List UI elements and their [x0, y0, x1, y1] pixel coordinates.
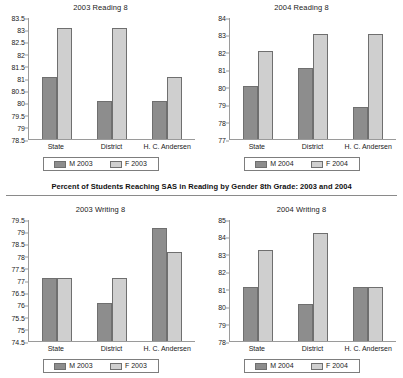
bar-group — [353, 18, 383, 139]
plot-frame — [28, 18, 195, 140]
bar-male[interactable] — [243, 86, 258, 139]
bar-male[interactable] — [298, 68, 313, 139]
chart-panel-2003-reading-8: 2003 Reading 8 78.57979.58080.58181.5828… — [0, 0, 201, 171]
y-axis-tick-label: 82.5 — [11, 39, 25, 46]
bar-female[interactable] — [258, 250, 273, 341]
bar-male[interactable] — [298, 304, 313, 341]
bar-group — [97, 220, 127, 341]
y-axis-tick-label: 77 — [218, 137, 226, 144]
bar-series-container — [29, 18, 195, 139]
bar-series-container — [29, 220, 195, 341]
chart-title: 2004 Reading 8 — [201, 0, 402, 14]
y-axis-tick-label: 83.5 — [11, 15, 25, 22]
x-axis-tick-label: State — [28, 342, 84, 353]
bar-male[interactable] — [97, 101, 112, 139]
bar-series-container — [230, 220, 396, 341]
y-axis-tick-label: 77.5 — [11, 265, 25, 272]
y-axis: 78.57979.58080.58181.58282.58383.5 — [2, 14, 28, 140]
legend-label-female: F 2004 — [326, 362, 348, 370]
chart-title: 2004 Writing 8 — [201, 202, 402, 216]
y-axis-tick-label: 82 — [218, 49, 226, 56]
bar-male[interactable] — [152, 228, 167, 341]
legend-swatch-female-icon — [110, 161, 122, 168]
x-axis-tick-label: District — [285, 140, 341, 151]
legend-label-male: M 2003 — [69, 160, 92, 168]
legend-label-female: F 2003 — [125, 160, 147, 168]
y-axis-tick-label: 85 — [218, 217, 226, 224]
legend-swatch-male-icon — [54, 161, 66, 168]
chart-panel-2004-writing-8: 2004 Writing 8 7879808182838485 StateDis… — [201, 202, 402, 373]
y-axis-tick-label: 80 — [218, 84, 226, 91]
section-heading: Percent of Students Reaching SAS in Read… — [0, 182, 403, 192]
bar-group — [152, 18, 182, 139]
x-axis-tick-label: District — [84, 140, 140, 151]
y-axis-tick-label: 83 — [218, 32, 226, 39]
legend-item-male: M 2004 — [255, 362, 293, 370]
chart-legend: M 2003 F 2003 — [43, 157, 159, 171]
y-axis-tick-label: 83 — [17, 27, 25, 34]
bar-male[interactable] — [42, 278, 57, 341]
y-axis-tick-label: 78 — [17, 253, 25, 260]
plot-frame — [229, 18, 396, 140]
y-axis-tick-label: 80.5 — [11, 88, 25, 95]
chart-legend: M 2004 F 2004 — [244, 157, 360, 171]
legend-swatch-male-icon — [255, 161, 267, 168]
bar-group — [152, 220, 182, 341]
y-axis-tick-label: 82 — [17, 51, 25, 58]
y-axis: 7879808182838485 — [203, 216, 229, 342]
y-axis: 74.57575.57676.57777.57878.57979.5 — [2, 216, 28, 342]
legend-label-male: M 2004 — [270, 362, 293, 370]
y-axis-tick-label: 76.5 — [11, 290, 25, 297]
plot-area: 7778798081828384 — [203, 14, 396, 140]
bar-female[interactable] — [368, 287, 383, 341]
y-axis-tick-label: 77 — [17, 278, 25, 285]
bar-female[interactable] — [313, 34, 328, 139]
y-axis-tick-label: 84 — [218, 15, 226, 22]
bar-male[interactable] — [353, 287, 368, 341]
x-axis-tick-label: H. C. Andersen — [139, 140, 195, 151]
bar-female[interactable] — [368, 34, 383, 139]
bar-male[interactable] — [152, 101, 167, 139]
y-axis-tick-label: 74.5 — [11, 339, 25, 346]
legend-item-male: M 2003 — [54, 362, 92, 370]
y-axis: 7778798081828384 — [203, 14, 229, 140]
bar-female[interactable] — [167, 252, 182, 341]
legend-swatch-male-icon — [255, 363, 267, 370]
bar-female[interactable] — [313, 233, 328, 341]
bar-female[interactable] — [112, 28, 127, 139]
bar-female[interactable] — [258, 51, 273, 139]
legend-label-male: M 2004 — [270, 160, 293, 168]
bar-female[interactable] — [112, 278, 127, 341]
bar-female[interactable] — [57, 278, 72, 341]
chart-page: 2003 Reading 8 78.57979.58080.58181.5828… — [0, 0, 403, 378]
y-axis-tick-label: 78.5 — [11, 137, 25, 144]
bar-female[interactable] — [57, 28, 72, 139]
x-axis-tick-label: State — [229, 140, 285, 151]
chart-panel-2003-writing-8: 2003 Writing 8 74.57575.57676.57777.5787… — [0, 202, 201, 373]
plot-frame — [28, 220, 195, 342]
y-axis-tick-label: 83 — [218, 251, 226, 258]
bar-group — [298, 18, 328, 139]
y-axis-tick-label: 84 — [218, 234, 226, 241]
y-axis-tick-label: 79 — [17, 124, 25, 131]
y-axis-tick-label: 81 — [17, 76, 25, 83]
bar-female[interactable] — [167, 77, 182, 139]
legend-item-female: F 2004 — [311, 160, 348, 168]
plot-area: 7879808182838485 — [203, 216, 396, 342]
bar-male[interactable] — [97, 303, 112, 341]
bar-male[interactable] — [42, 77, 57, 139]
x-axis: StateDistrictH. C. Andersen — [28, 140, 195, 153]
y-axis-tick-label: 76 — [17, 302, 25, 309]
legend-label-female: F 2004 — [326, 160, 348, 168]
bar-male[interactable] — [353, 107, 368, 139]
plot-frame — [229, 220, 396, 342]
y-axis-tick-label: 79.5 — [11, 112, 25, 119]
x-axis-tick-label: H. C. Andersen — [340, 342, 396, 353]
y-axis-tick-label: 78 — [218, 339, 226, 346]
plot-area: 78.57979.58080.58181.58282.58383.5 — [2, 14, 195, 140]
y-axis-tick-label: 80 — [218, 304, 226, 311]
legend-item-male: M 2003 — [54, 160, 92, 168]
legend-swatch-female-icon — [110, 363, 122, 370]
bar-male[interactable] — [243, 287, 258, 341]
x-axis: StateDistrictH. C. Andersen — [229, 342, 396, 355]
